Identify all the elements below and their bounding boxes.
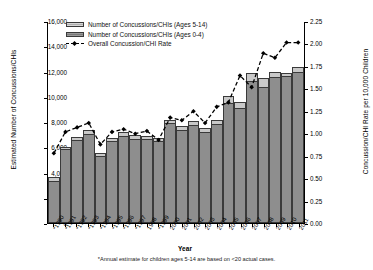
legend-label-overall-rate: Overall Concussion/CHI Rate <box>88 39 171 49</box>
legend-swatch-overall-rate <box>66 41 84 47</box>
x-axis-tick-mark <box>158 224 159 227</box>
x-axis-tick-mark <box>88 224 89 227</box>
rate-line-marker <box>75 125 80 130</box>
x-axis-tick-mark <box>170 224 171 227</box>
rate-line-marker <box>214 105 219 110</box>
y-axis-right-tick-label: 0.25 <box>310 198 350 205</box>
y-axis-right-tick-mark <box>305 89 308 90</box>
y-axis-right-tick-label: 0.00 <box>310 220 350 227</box>
chart-footnote: *Annual estimate for children ages 5-14 … <box>20 256 353 262</box>
rate-line-marker <box>110 130 115 135</box>
legend-swatch-ages-5-14 <box>66 22 84 27</box>
rate-line-marker <box>249 85 254 90</box>
x-axis-tick-mark <box>112 224 113 227</box>
x-axis-tick-mark <box>276 224 277 227</box>
y-axis-right-tick-mark <box>305 67 308 68</box>
rate-line-marker <box>296 40 301 45</box>
x-axis-tick-mark <box>194 224 195 227</box>
y-axis-right-tick-label: 1.00 <box>310 130 350 137</box>
x-axis-tick-mark <box>252 224 253 227</box>
x-axis-tick-mark <box>147 224 148 227</box>
plot-area <box>47 22 305 224</box>
legend-item-overall-rate: Overall Concussion/CHI Rate <box>66 39 207 49</box>
x-axis-tick-mark <box>65 224 66 227</box>
x-axis-tick-mark <box>241 224 242 227</box>
y-axis-right-tick-label: 1.25 <box>310 108 350 115</box>
y-axis-right-tick-label: 1.50 <box>310 85 350 92</box>
rate-line-marker <box>261 51 266 56</box>
x-axis-tick-mark <box>100 224 101 227</box>
x-axis-tick-mark <box>205 224 206 227</box>
y-axis-right-tick-mark <box>305 44 308 45</box>
y-axis-right-tick-label: 2.25 <box>310 18 350 25</box>
legend-label-ages-5-14: Number of Concussions/CHIs (Ages 5-14) <box>88 20 207 30</box>
y-axis-right-tick-mark <box>305 157 308 158</box>
y-axis-right-tick-label: 2.00 <box>310 40 350 47</box>
rate-line-path <box>54 43 298 154</box>
y-axis-left-tick-mark <box>44 224 47 225</box>
y-axis-right-tick-mark <box>305 22 308 23</box>
y-axis-right-tick-mark <box>305 112 308 113</box>
rate-line-marker <box>226 100 231 105</box>
legend-swatch-ages-0-4 <box>66 32 84 37</box>
x-axis-tick-mark <box>123 224 124 227</box>
y-axis-right-tick-label: 0.50 <box>310 175 350 182</box>
x-axis-title: Year <box>40 245 330 252</box>
chart-container: Estimated Number of Concussions/CHIs Con… <box>0 0 373 270</box>
x-axis-tick-mark <box>217 224 218 227</box>
y-axis-right-tick-mark <box>305 134 308 135</box>
y-axis-left-title: Estimated Number of Concussions/CHIs <box>10 35 17 185</box>
chart-legend: Number of Concussions/CHIs (Ages 5-14) N… <box>66 20 207 49</box>
legend-label-ages-0-4: Number of Concussions/CHIs (Ages 0-4) <box>88 30 204 40</box>
y-axis-right-tick-mark <box>305 179 308 180</box>
x-axis-tick-mark <box>182 224 183 227</box>
rate-line-marker <box>133 131 138 136</box>
x-axis-tick-mark <box>287 224 288 227</box>
x-axis-tick-mark <box>53 224 54 227</box>
legend-item-ages-0-4: Number of Concussions/CHIs (Ages 0-4) <box>66 30 207 40</box>
rate-line-marker <box>156 138 161 143</box>
x-axis-tick-mark <box>264 224 265 227</box>
x-axis-tick-mark <box>229 224 230 227</box>
rate-line-series <box>48 22 304 223</box>
rate-line-marker <box>168 115 173 120</box>
legend-item-ages-5-14: Number of Concussions/CHIs (Ages 5-14) <box>66 20 207 30</box>
rate-line-marker <box>121 127 126 132</box>
x-axis-tick-mark <box>76 224 77 227</box>
x-axis-tick-mark <box>135 224 136 227</box>
x-axis-tick-mark <box>299 224 300 227</box>
y-axis-right-title: Concussion/CHI Rate per 10,000 Children <box>362 37 369 187</box>
y-axis-right-tick-label: 0.75 <box>310 153 350 160</box>
y-axis-right-tick-label: 1.75 <box>310 63 350 70</box>
y-axis-right-tick-mark <box>305 202 308 203</box>
